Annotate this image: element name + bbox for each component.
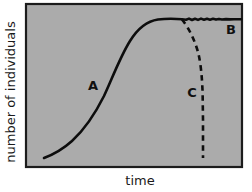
- curve-label-a: A: [88, 78, 98, 93]
- population-growth-figure: A B C number of individuals time: [0, 0, 252, 192]
- curve-label-c: C: [187, 85, 197, 100]
- x-axis-label: time: [125, 173, 154, 188]
- chart-canvas: A B C number of individuals time: [0, 0, 252, 192]
- curve-label-b: B: [226, 22, 236, 37]
- plot-area-frame: [26, 4, 242, 167]
- y-axis-label: number of individuals: [3, 21, 18, 163]
